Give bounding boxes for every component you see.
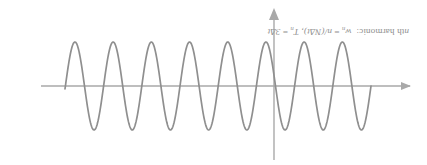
caption-t-subscript: n: [290, 26, 293, 33]
caption-prefix: th harmonic:: [356, 27, 404, 37]
caption-w-value: n/(NΔt),: [301, 27, 331, 37]
caption-equals-1: =: [332, 27, 342, 37]
harmonic-caption: nth harmonic: wn = n/(NΔt), Tn = 3Δt: [209, 19, 409, 39]
figure-container: nth harmonic: wn = n/(NΔt), Tn = 3Δt: [0, 0, 427, 165]
caption-t-symbol: T: [294, 27, 299, 37]
caption-t-value: 3Δt: [267, 27, 280, 37]
caption-w-symbol: w: [345, 27, 351, 37]
time-axis: [41, 82, 411, 90]
caption-equals-2: =: [280, 27, 290, 37]
rotated-figure-content: nth harmonic: wn = n/(NΔt), Tn = 3Δt: [0, 0, 427, 165]
caption-n-italic: n: [404, 27, 409, 37]
caption-w-subscript: n: [342, 26, 345, 33]
time-axis-arrowhead-icon: [401, 82, 411, 90]
